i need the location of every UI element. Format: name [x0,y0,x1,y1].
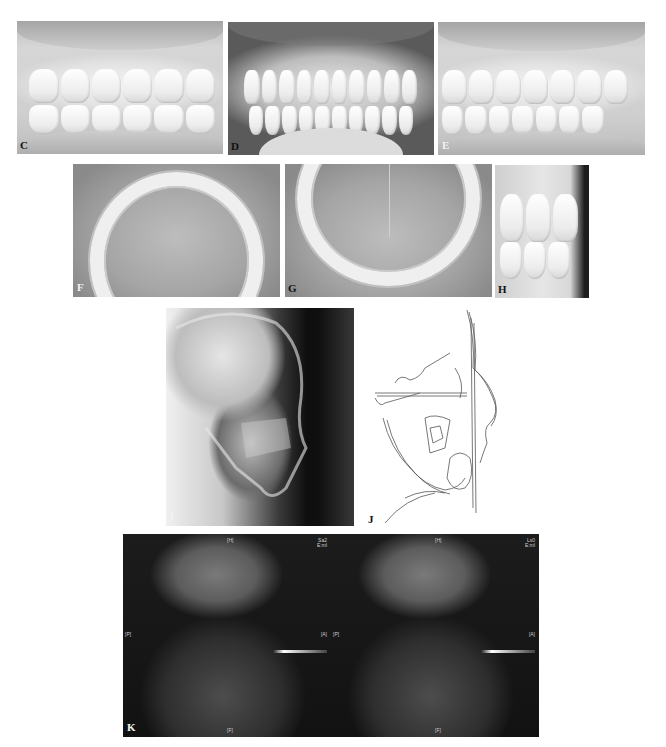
panel-g-mandibular-occlusal-photo: G [285,164,492,297]
panel-c-right-lateral-photo: C [17,21,223,154]
mri-marker-left: [P] [333,632,339,637]
panel-e-left-lateral-photo: E [438,22,645,155]
panel-f-maxillary-occlusal-photo: F [73,164,280,297]
panel-k-tmj-mri: [H] [P] [A] [F] Sa2 E:ml [H] [P] [A] [F]… [123,534,539,737]
mri-marker-right: [A] [321,632,327,637]
panel-label-f: F [77,282,84,293]
lower-lip [17,130,223,154]
panel-label-j: J [368,514,374,525]
lower-teeth [500,242,571,279]
mri-corner-annotation: Ls0 E:ml [525,538,535,548]
upper-teeth [500,194,578,242]
tongue-midline [389,164,390,237]
panel-label-e: E [442,140,449,151]
tracing-lines [365,308,505,528]
panel-label-d: D [231,141,239,152]
mri-image-left: [H] [P] [A] [F] Sa2 E:ml [123,534,331,737]
mri-marker-bottom: [F] [227,728,233,733]
maxillary-dental-arch [90,172,264,297]
upper-lip [228,22,434,46]
lower-lip [438,131,645,155]
upper-teeth [244,70,417,105]
panel-label-h: H [498,284,507,295]
panel-label-k: K [127,722,136,733]
panel-label-i: I [170,511,174,522]
panel-label-c: C [20,140,28,151]
panel-label-g: G [288,283,297,294]
panel-i-lateral-cephalogram: I [166,308,354,526]
mri-corner-annotation: Sa2 E:ml [317,538,327,548]
mri-marker-top: [H] [435,538,441,543]
mri-marker-top: [H] [227,538,233,543]
upper-lip [438,22,645,51]
mri-marker-bottom: [F] [435,728,441,733]
upper-teeth [442,70,628,105]
mri-image-right: [H] [P] [A] [F] Ls0 E:ml [331,534,539,737]
panel-h-overjet-photo: H [495,165,589,298]
mri-marker-right: [A] [529,632,535,637]
panel-j-cephalometric-tracing: J [365,308,505,528]
mri-marker-left: [P] [125,632,131,637]
upper-lip [17,21,223,50]
upper-teeth [29,69,214,104]
panel-d-frontal-photo: D [228,22,434,155]
